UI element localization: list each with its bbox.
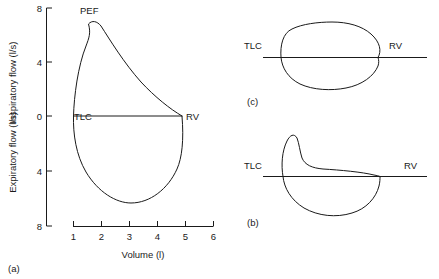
panel-a-tlc-label: TLC xyxy=(74,111,92,122)
panel-a-x-axis-title: Volume (l) xyxy=(122,249,165,260)
panel-c-label: (c) xyxy=(247,96,258,107)
panel-c: TLC RV (c) xyxy=(244,22,427,107)
panel-a-inspiratory-curve xyxy=(73,116,182,203)
panel-a-x-tick-label-3: 4 xyxy=(155,231,160,242)
panel-a-y-tick-label-0: 8 xyxy=(37,3,42,14)
figure-canvas: 8 4 0 4 8 Expiratory flow (l/s) Inspirat… xyxy=(0,0,439,279)
panel-a-x-tick-label-2: 3 xyxy=(127,231,132,242)
panel-c-rv-label: RV xyxy=(389,40,403,51)
panel-a-expiratory-curve xyxy=(74,22,183,116)
panel-a-label: (a) xyxy=(8,263,20,274)
panel-b-inspiratory-curve xyxy=(283,177,380,216)
panel-b-rv-label: RV xyxy=(404,160,418,171)
panel-a-pef-label: PEF xyxy=(80,5,99,16)
panel-b: TLC RV (b) xyxy=(244,135,427,228)
panel-a: 8 4 0 4 8 Expiratory flow (l/s) Inspirat… xyxy=(7,3,216,274)
panel-c-expiratory-curve xyxy=(281,22,380,58)
panel-b-expiratory-curve xyxy=(282,135,380,176)
panel-a-x-tick-label-5: 6 xyxy=(211,231,216,242)
panel-a-y-tick-label-2: 0 xyxy=(37,111,42,122)
panel-a-x-tick-label-0: 1 xyxy=(71,231,76,242)
panel-a-y-tick-label-3: 4 xyxy=(37,166,42,177)
panel-b-tlc-label: TLC xyxy=(244,160,262,171)
panel-a-rv-label: RV xyxy=(186,111,200,122)
panel-b-label: (b) xyxy=(247,217,259,228)
panel-c-tlc-label: TLC xyxy=(244,40,262,51)
panel-a-y-tick-label-4: 8 xyxy=(37,221,42,232)
panel-a-x-tick-label-1: 2 xyxy=(99,231,104,242)
panel-a-x-tick-label-4: 5 xyxy=(183,231,188,242)
panel-a-y-tick-label-1: 4 xyxy=(37,57,42,68)
panel-c-inspiratory-curve xyxy=(281,58,379,90)
flow-volume-loop-figure: 8 4 0 4 8 Expiratory flow (l/s) Inspirat… xyxy=(0,0,439,279)
panel-a-inspiratory-axis-title: Inspiratory flow (l/s) xyxy=(7,42,18,124)
